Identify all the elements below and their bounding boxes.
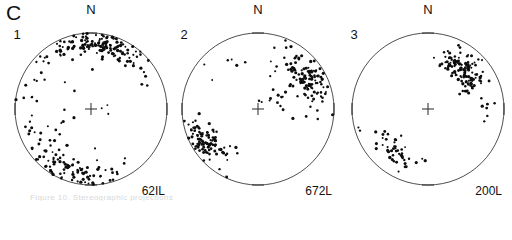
data-point (24, 84, 27, 87)
data-point (461, 82, 464, 85)
data-point (47, 160, 49, 162)
data-point (72, 176, 75, 179)
data-point (52, 159, 54, 161)
data-point (403, 159, 405, 161)
cut-off-caption: Figure 10. Stereographic projections (30, 193, 173, 201)
data-point (473, 84, 476, 87)
data-point (273, 47, 275, 49)
panel-number-1: 1 (13, 27, 20, 42)
data-point (311, 100, 313, 102)
data-point (450, 74, 453, 77)
data-point (294, 61, 297, 64)
data-point (390, 149, 393, 152)
data-point (219, 148, 222, 151)
data-point (331, 113, 334, 116)
data-point (183, 120, 186, 123)
data-point (213, 149, 216, 152)
data-point (72, 158, 75, 161)
data-point (44, 149, 47, 152)
data-point (31, 96, 33, 98)
data-point (91, 40, 94, 43)
data-point (109, 44, 111, 46)
data-point (58, 45, 61, 48)
data-point (31, 114, 33, 116)
data-point (295, 79, 297, 81)
data-point (269, 75, 271, 77)
data-point (49, 144, 51, 146)
data-point (124, 64, 127, 67)
data-point (307, 70, 309, 72)
data-point (443, 51, 446, 54)
data-point (53, 163, 56, 166)
data-point (82, 178, 85, 181)
data-point (199, 138, 201, 140)
data-point (470, 54, 473, 57)
data-point (448, 64, 451, 67)
data-point (282, 108, 285, 111)
data-point (383, 130, 386, 133)
data-point (470, 67, 472, 69)
data-point (119, 44, 122, 47)
data-point (106, 36, 109, 39)
data-point (192, 121, 194, 123)
data-point (77, 180, 79, 182)
data-point (33, 79, 35, 81)
data-point (214, 136, 217, 139)
data-point (202, 143, 205, 146)
data-point (89, 175, 91, 177)
data-point (324, 92, 327, 95)
data-point (474, 64, 477, 67)
data-point (54, 129, 57, 132)
data-point (405, 165, 408, 168)
data-point (235, 64, 238, 67)
data-point (205, 151, 208, 154)
data-point (474, 62, 476, 64)
data-point (465, 90, 467, 92)
data-point (42, 60, 44, 62)
data-point (293, 57, 296, 60)
data-points-panel-3 (357, 44, 496, 173)
data-point (71, 179, 73, 181)
data-point (424, 159, 427, 162)
data-point (22, 97, 25, 100)
data-point (47, 62, 50, 65)
data-point (115, 37, 118, 40)
data-point (471, 63, 473, 65)
data-point (63, 41, 66, 44)
sample-label-2: 672L (305, 184, 332, 198)
data-point (35, 158, 38, 161)
data-point (223, 147, 225, 149)
data-point (261, 101, 263, 103)
data-point (400, 134, 402, 136)
data-point (277, 94, 280, 97)
data-point (274, 70, 276, 72)
data-point (310, 78, 313, 81)
data-point (477, 58, 479, 60)
data-point (98, 40, 100, 42)
data-point (203, 63, 205, 65)
data-point (457, 69, 460, 72)
data-point (29, 121, 31, 123)
data-point (474, 73, 476, 75)
data-point (54, 153, 57, 156)
data-point (279, 105, 281, 107)
data-point (76, 169, 79, 172)
data-point (459, 51, 461, 53)
data-point (317, 75, 320, 78)
data-point (231, 59, 233, 61)
data-point (208, 146, 210, 148)
data-point (72, 35, 75, 38)
data-point (301, 72, 304, 75)
data-point (97, 42, 100, 45)
data-point (30, 126, 33, 129)
data-point (300, 54, 303, 57)
data-point (139, 53, 142, 56)
data-point (284, 90, 287, 93)
data-point (192, 127, 194, 129)
data-point (58, 148, 61, 151)
data-point (225, 176, 228, 179)
data-point (275, 65, 278, 68)
data-point (115, 41, 118, 44)
data-point (39, 132, 42, 135)
data-point (458, 57, 460, 59)
